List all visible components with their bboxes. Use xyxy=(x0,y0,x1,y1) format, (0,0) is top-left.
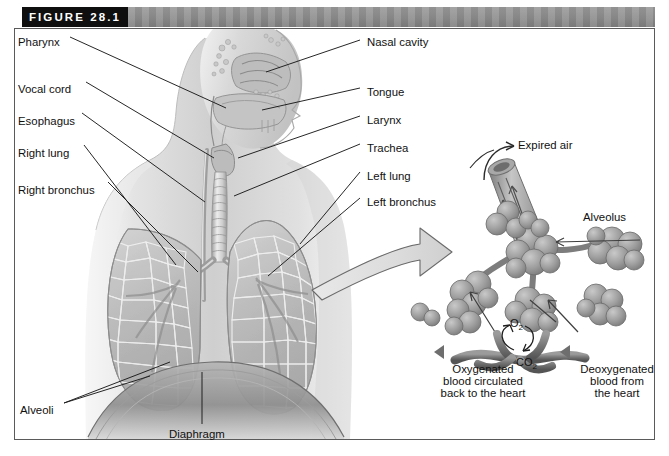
label-trachea: Trachea xyxy=(367,142,408,154)
label-left-lung: Left lung xyxy=(367,170,411,182)
respiratory-system-illustration xyxy=(0,0,669,456)
oxygen-subscript: 2 xyxy=(519,323,523,332)
caption-line: back to the heart xyxy=(420,387,546,399)
label-esophagus: Esophagus xyxy=(18,115,75,127)
label-left-bronchus: Left bronchus xyxy=(367,196,436,208)
label-alveolus: Alveolus xyxy=(583,211,626,223)
label-vocal-cord: Vocal cord xyxy=(18,83,71,95)
label-right-bronchus: Right bronchus xyxy=(18,184,95,196)
label-tongue: Tongue xyxy=(367,86,404,98)
label-right-lung: Right lung xyxy=(18,147,69,159)
label-diaphragm: Diaphragm xyxy=(169,428,225,440)
caption-line: the heart xyxy=(570,387,664,399)
tongue xyxy=(213,94,286,129)
label-expired-air: Expired air xyxy=(518,139,572,151)
caption-line: Deoxygenated xyxy=(570,363,664,375)
label-nasal-cavity: Nasal cavity xyxy=(367,36,428,48)
nasal-cavity xyxy=(232,53,291,93)
label-pharynx: Pharynx xyxy=(18,36,60,48)
label-larynx: Larynx xyxy=(367,114,401,126)
trachea xyxy=(212,172,228,262)
oxygen-text: O xyxy=(510,317,519,329)
figure-container: FIGURE 28.1 xyxy=(0,0,669,456)
caption-line: blood from xyxy=(570,375,664,387)
label-alveoli: Alveoli xyxy=(20,404,54,416)
caption-line: blood circulated xyxy=(420,375,546,387)
caption-line: Oxygenated xyxy=(420,363,546,375)
caption-oxygenated-blood: Oxygenated blood circulated back to the … xyxy=(420,363,546,399)
caption-deoxygenated-blood: Deoxygenated blood from the heart xyxy=(570,363,664,399)
label-oxygen: O2 xyxy=(510,317,523,334)
